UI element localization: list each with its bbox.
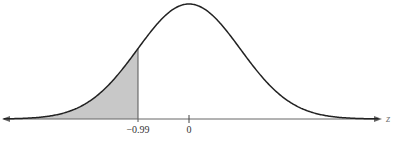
tick-label-zero: 0: [187, 124, 192, 135]
chart-svg: −0.99 0 z: [0, 0, 402, 143]
tick-label-neg: −0.99: [126, 124, 149, 135]
normal-curve-chart: −0.99 0 z: [0, 0, 402, 143]
z-axis-label: z: [385, 112, 391, 124]
normal-curve: [4, 4, 379, 119]
shaded-left-tail: [4, 49, 138, 119]
